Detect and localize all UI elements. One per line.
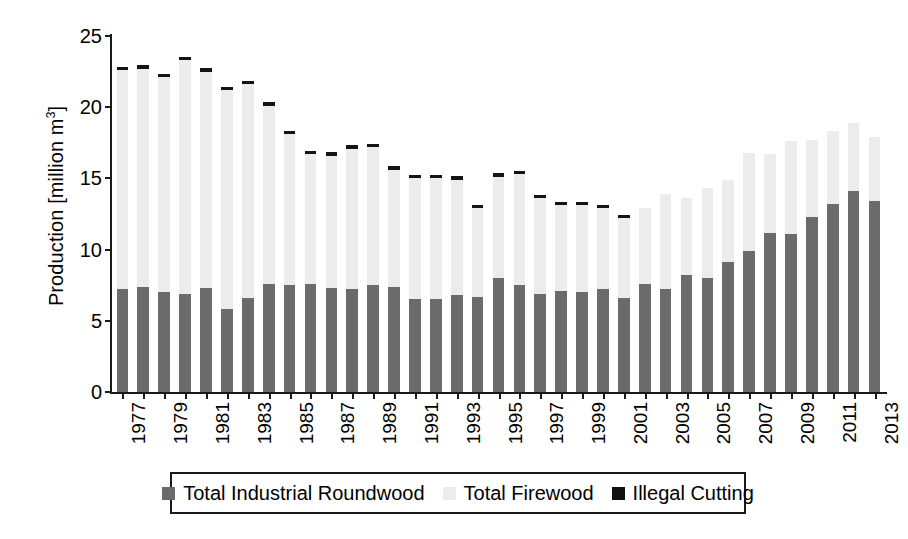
- x-axis-tick-mark: [519, 392, 521, 399]
- x-axis-tick-mark: [791, 392, 793, 399]
- x-axis-tick-label: 1999: [589, 402, 608, 444]
- legend-item-2[interactable]: Total Firewood: [443, 483, 594, 503]
- bar-segment-firewood: [200, 72, 212, 288]
- bar-segment-industrial-roundwood: [242, 298, 254, 392]
- bar-segment-firewood: [597, 208, 609, 289]
- bar-1999: [576, 36, 588, 392]
- bar-segment-industrial-roundwood: [137, 287, 149, 392]
- bar-segment-firewood: [555, 205, 567, 290]
- x-axis-tick-mark: [436, 392, 438, 399]
- bar-segment-industrial-roundwood: [493, 278, 505, 392]
- x-axis-tick-label: 2011: [840, 402, 859, 443]
- bar-1995: [493, 36, 505, 392]
- chart-legend: Total Industrial RoundwoodTotal Firewood…: [170, 472, 746, 514]
- bar-segment-industrial-roundwood: [848, 191, 860, 392]
- y-axis-title: Production [million m3]: [34, 26, 68, 386]
- bar-segment-firewood: [451, 180, 463, 295]
- x-axis-tick-mark: [854, 392, 856, 399]
- bar-segment-firewood: [137, 69, 149, 287]
- bar-segment-illegal-cutting: [597, 205, 609, 209]
- x-axis-tick-mark: [707, 392, 709, 399]
- bar-1979: [158, 36, 170, 392]
- bar-segment-illegal-cutting: [305, 151, 317, 155]
- legend-item-label: Total Firewood: [464, 483, 594, 503]
- bar-segment-illegal-cutting: [555, 202, 567, 206]
- bar-1986: [305, 36, 317, 392]
- bar-segment-industrial-roundwood: [179, 294, 191, 392]
- x-axis-tick-label: 2005: [714, 402, 733, 444]
- bar-segment-firewood: [117, 70, 129, 289]
- bar-segment-illegal-cutting: [284, 131, 296, 135]
- x-axis-tick-label: 1983: [255, 402, 274, 444]
- x-axis-tick-label: 1977: [129, 402, 148, 444]
- bar-segment-firewood: [514, 174, 526, 285]
- bar-segment-industrial-roundwood: [534, 294, 546, 392]
- bar-segment-firewood: [534, 198, 546, 293]
- bar-segment-firewood: [409, 178, 421, 299]
- plot-area: 0510152025: [112, 36, 885, 392]
- bar-segment-industrial-roundwood: [263, 284, 275, 392]
- x-axis-tick-mark: [227, 392, 229, 399]
- bar-1990: [388, 36, 400, 392]
- y-axis-tick-mark: [105, 249, 112, 251]
- x-axis-tick-mark: [310, 392, 312, 399]
- x-axis-tick-label: 1997: [547, 402, 566, 444]
- bar-segment-illegal-cutting: [367, 144, 379, 148]
- bar-1982: [221, 36, 233, 392]
- y-axis-tick-label: 0: [38, 382, 112, 402]
- bar-2010: [806, 36, 818, 392]
- bar-segment-industrial-roundwood: [743, 251, 755, 392]
- x-axis-tick-mark: [603, 392, 605, 399]
- bar-segment-industrial-roundwood: [326, 288, 338, 392]
- bar-segment-illegal-cutting: [179, 57, 191, 61]
- x-axis-tick-label: 1993: [464, 402, 483, 444]
- x-axis-tick-mark: [582, 392, 584, 399]
- bar-segment-industrial-roundwood: [702, 278, 714, 392]
- bar-1997: [534, 36, 546, 392]
- bar-2002: [639, 36, 651, 392]
- bar-1981: [200, 36, 212, 392]
- x-axis-tick-label: 2003: [673, 402, 692, 444]
- x-axis-tick-mark: [206, 392, 208, 399]
- bar-segment-firewood: [743, 153, 755, 251]
- bar-segment-illegal-cutting: [430, 175, 442, 179]
- bar-segment-firewood: [263, 106, 275, 284]
- x-axis-tick-mark: [394, 392, 396, 399]
- bar-1992: [430, 36, 442, 392]
- x-axis-tick-mark: [645, 392, 647, 399]
- bar-segment-industrial-roundwood: [722, 262, 734, 392]
- bar-segment-illegal-cutting: [388, 166, 400, 170]
- bar-2001: [618, 36, 630, 392]
- bar-segment-firewood: [785, 141, 797, 234]
- bar-segment-illegal-cutting: [576, 202, 588, 206]
- bar-segment-firewood: [221, 90, 233, 309]
- x-axis-tick-label: 1989: [380, 402, 399, 444]
- x-axis-tick-mark: [540, 392, 542, 399]
- y-axis-tick-label: 20: [38, 97, 112, 117]
- y-axis-tick-mark: [105, 391, 112, 393]
- x-axis-tick-label: 2001: [631, 402, 650, 444]
- x-axis-tick-mark: [728, 392, 730, 399]
- x-axis-tick-mark: [812, 392, 814, 399]
- bar-1977: [117, 36, 129, 392]
- bar-segment-industrial-roundwood: [117, 289, 129, 392]
- bar-1984: [263, 36, 275, 392]
- y-axis-tick-label: 10: [38, 240, 112, 260]
- bar-segment-industrial-roundwood: [284, 285, 296, 392]
- legend-item-3[interactable]: Illegal Cutting: [612, 483, 754, 503]
- bar-segment-firewood: [346, 149, 358, 290]
- x-axis-tick-mark: [373, 392, 375, 399]
- bar-segment-industrial-roundwood: [430, 299, 442, 392]
- x-axis-tick-label: 1991: [422, 402, 441, 444]
- bar-segment-firewood: [576, 205, 588, 292]
- bar-segment-illegal-cutting: [200, 68, 212, 72]
- bar-1991: [409, 36, 421, 392]
- bar-segment-firewood: [806, 140, 818, 217]
- legend-item-1[interactable]: Total Industrial Roundwood: [162, 483, 424, 503]
- bar-segment-illegal-cutting: [451, 176, 463, 180]
- bar-segment-illegal-cutting: [409, 175, 421, 179]
- bar-2006: [722, 36, 734, 392]
- bar-segment-industrial-roundwood: [200, 288, 212, 392]
- bar-segment-firewood: [472, 208, 484, 296]
- bar-2005: [702, 36, 714, 392]
